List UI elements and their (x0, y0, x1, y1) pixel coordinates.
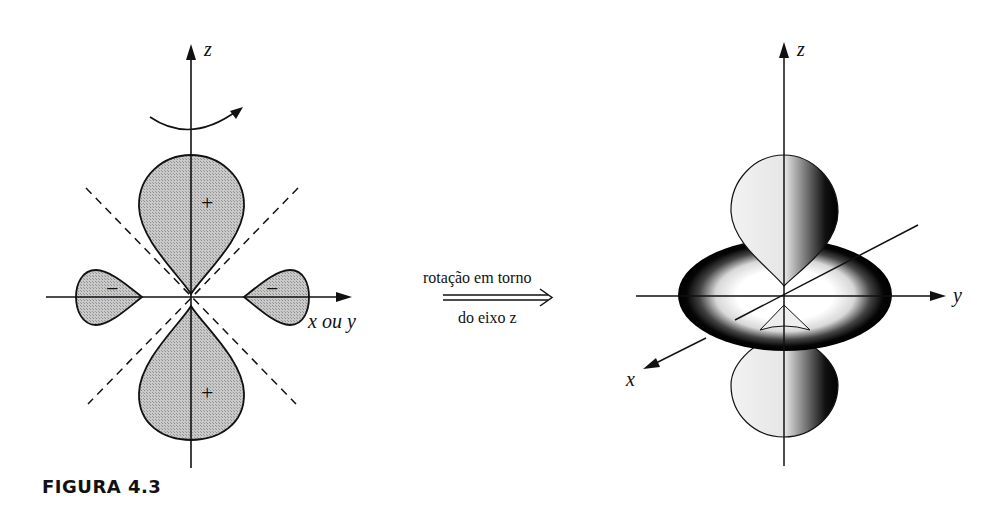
rotation-arrowhead (230, 107, 243, 119)
top-lobe-sign: + (201, 190, 213, 216)
x-axis-3d-arrowhead (643, 358, 660, 369)
x-axis-3d (650, 338, 706, 366)
bottom-lobe-sign: + (201, 380, 213, 406)
z-axis-arrowhead (186, 44, 196, 60)
x-axis-label: x (626, 368, 635, 391)
rotation-label-bottom: do eixo z (458, 309, 517, 327)
rotation-arrow (150, 110, 238, 129)
right-3d-orbital (636, 42, 946, 466)
left-2d-orbital (46, 44, 352, 468)
horizontal-axis-arrowhead (336, 292, 352, 302)
z-axis-label-left: z (204, 38, 212, 61)
transform-arrow (443, 289, 552, 306)
z-axis-label-right: z (797, 38, 805, 61)
right-lobe-sign: − (266, 276, 278, 302)
z-axis-3d-arrowhead (779, 42, 789, 58)
y-axis-3d-arrowhead (930, 291, 946, 301)
y-axis-label: y (953, 284, 962, 307)
horizontal-axis-label: x ou y (308, 310, 356, 333)
left-lobe-sign: − (106, 276, 118, 302)
figure-caption: FIGURA 4.3 (42, 476, 161, 497)
orbital-figure (0, 0, 1008, 508)
rotation-label-top: rotação em torno (423, 269, 531, 287)
